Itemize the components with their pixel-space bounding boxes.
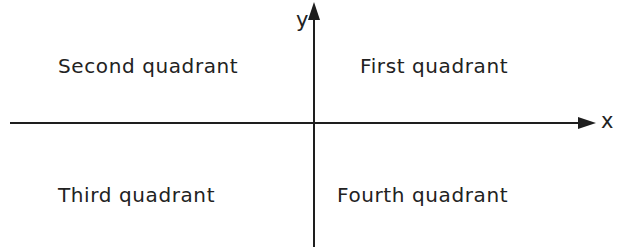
x-axis-label: x bbox=[601, 109, 613, 133]
y-axis-arrowhead-icon bbox=[308, 2, 320, 20]
second-quadrant-label: Second quadrant bbox=[58, 54, 238, 78]
axes-graphic bbox=[0, 0, 617, 247]
third-quadrant-label: Third quadrant bbox=[58, 183, 215, 207]
x-axis-arrowhead-icon bbox=[578, 117, 596, 129]
first-quadrant-label: First quadrant bbox=[360, 54, 508, 78]
fourth-quadrant-label: Fourth quadrant bbox=[337, 183, 508, 207]
y-axis-label: y bbox=[296, 8, 308, 32]
quadrant-diagram: y x Second quadrant First quadrant Third… bbox=[0, 0, 617, 247]
